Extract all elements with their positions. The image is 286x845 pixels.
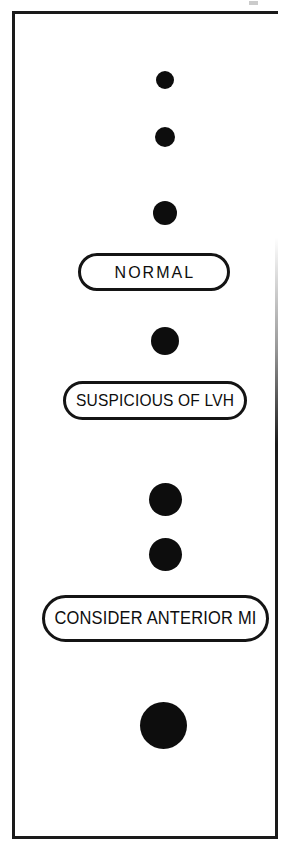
scanned-page: NORMAL SUSPICIOUS OF LVH CONSIDER ANTERI…	[0, 0, 286, 845]
severity-dot-1	[156, 71, 174, 89]
label-pill-normal[interactable]: NORMAL	[78, 253, 230, 291]
label-pill-normal-text: NORMAL	[113, 264, 196, 281]
severity-dot-3	[153, 201, 177, 225]
severity-dot-6	[149, 538, 182, 571]
frame-right-edge-fade	[275, 14, 278, 444]
label-pill-consider-anterior-mi[interactable]: CONSIDER ANTERIOR MI	[42, 595, 269, 642]
scan-artifact-speck	[249, 1, 258, 5]
diagram-frame-border: NORMAL SUSPICIOUS OF LVH CONSIDER ANTERI…	[12, 11, 278, 839]
severity-sequence-column: NORMAL SUSPICIOUS OF LVH CONSIDER ANTERI…	[15, 14, 275, 836]
label-pill-suspicious-of-lvh[interactable]: SUSPICIOUS OF LVH	[63, 381, 247, 420]
severity-dot-2	[155, 127, 175, 147]
severity-dot-4	[151, 327, 179, 355]
label-pill-consider-anterior-mi-text: CONSIDER ANTERIOR MI	[54, 610, 256, 628]
severity-dot-5	[149, 483, 182, 516]
severity-dot-7	[140, 702, 187, 749]
label-pill-suspicious-of-lvh-text: SUSPICIOUS OF LVH	[76, 392, 234, 409]
